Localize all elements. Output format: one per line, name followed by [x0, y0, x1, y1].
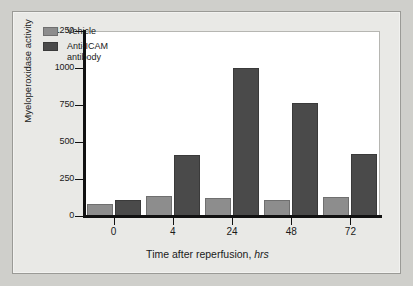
x-axis-title-main: Time after reperfusion,: [146, 248, 251, 260]
y-tick: [75, 68, 83, 69]
bar-anti-icam-48: [292, 103, 318, 216]
bar-vehicle-48: [264, 200, 290, 216]
x-tick: [114, 218, 115, 225]
legend-label-vehicle: Vehicle: [67, 26, 96, 37]
chart-legend: Vehicle Anti-ICAMantibody: [43, 26, 108, 67]
y-tick-label: 0: [34, 210, 74, 220]
legend-item-vehicle: Vehicle: [43, 26, 108, 37]
legend-swatch-anti-icam: [43, 42, 58, 51]
x-tick-label: 72: [335, 226, 365, 237]
y-axis-title: Myeloperoxidase activity: [22, 11, 36, 131]
bar-anti-icam-0: [115, 200, 141, 216]
x-tick-label: 0: [99, 226, 129, 237]
legend-swatch-vehicle: [43, 27, 58, 36]
x-tick: [232, 218, 233, 225]
y-tick-label: 750: [34, 99, 74, 109]
y-tick-label: 250: [34, 173, 74, 183]
bar-anti-icam-24: [233, 68, 259, 216]
y-tick: [75, 105, 83, 106]
x-tick: [291, 218, 292, 225]
x-tick-label: 24: [217, 226, 247, 237]
bar-vehicle-4: [146, 196, 172, 216]
x-tick-label: 4: [158, 226, 188, 237]
legend-label-anti-icam-line2: antibody: [67, 52, 101, 62]
bar-anti-icam-72: [351, 154, 377, 216]
y-tick: [75, 142, 83, 143]
x-axis-title-unit: hrs: [254, 248, 269, 260]
chart-figure: 025050075010001250 Myeloperoxidase activ…: [12, 11, 401, 274]
legend-label-anti-icam: Anti-ICAMantibody: [67, 41, 108, 63]
bar-vehicle-24: [205, 198, 231, 217]
x-tick: [350, 218, 351, 225]
bar-vehicle-72: [323, 197, 349, 216]
y-tick: [75, 179, 83, 180]
bars-layer: [84, 31, 380, 216]
x-tick: [173, 218, 174, 225]
y-tick: [75, 216, 83, 217]
legend-label-anti-icam-line1: Anti-ICAM: [67, 41, 108, 51]
bar-anti-icam-4: [174, 155, 200, 216]
legend-item-anti-icam: Anti-ICAMantibody: [43, 41, 108, 63]
x-tick-label: 48: [276, 226, 306, 237]
x-axis-title: Time after reperfusion, hrs: [13, 248, 402, 260]
y-tick-label: 500: [34, 136, 74, 146]
